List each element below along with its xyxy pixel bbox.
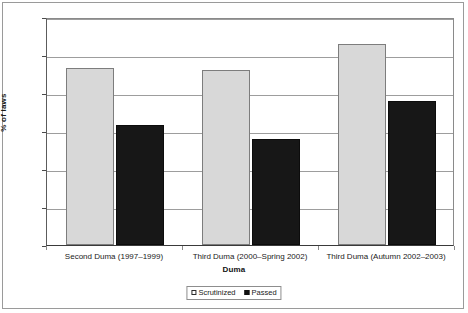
gridline [47, 19, 453, 20]
legend-item-passed[interactable]: Passed [245, 288, 277, 297]
gridline [47, 57, 453, 58]
bar-scrutinized-3 [338, 44, 386, 245]
x-axis-category-label: Third Duma (2000–Spring 2002) [182, 252, 318, 262]
x-axis-tick-mark [182, 246, 183, 250]
legend-label: Passed [252, 288, 277, 297]
bar-scrutinized-1 [66, 68, 114, 245]
bar-passed-2 [252, 139, 300, 245]
bar-passed-1 [116, 125, 164, 245]
legend-swatch-icon [191, 290, 196, 295]
legend-swatch-icon [245, 290, 250, 295]
x-axis-tick-mark [318, 246, 319, 250]
legend-label: Scrutinized [198, 288, 235, 297]
x-axis-tick-mark [454, 246, 455, 250]
x-axis-category-label: Second Duma (1997–1999) [46, 252, 182, 262]
chart-figure: % of laws 0102030405060 Second Duma (199… [0, 0, 468, 313]
x-axis-tick-mark [46, 246, 47, 250]
x-axis-title: Duma [0, 265, 468, 274]
bar-scrutinized-2 [202, 70, 250, 245]
plot-area [46, 18, 454, 246]
bar-passed-3 [388, 101, 436, 245]
chart-legend: ScrutinizedPassed [186, 286, 281, 300]
x-axis-category-label: Third Duma (Autumn 2002–2003) [318, 252, 454, 262]
y-axis-title: % of laws [0, 93, 8, 131]
legend-item-scrutinized[interactable]: Scrutinized [191, 288, 235, 297]
